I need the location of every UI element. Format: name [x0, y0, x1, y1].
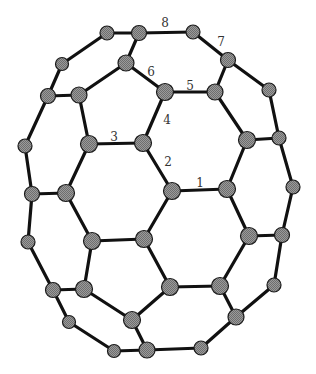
atom-J — [157, 84, 174, 101]
atom-L — [18, 139, 32, 153]
atom-a — [267, 278, 281, 292]
atom-C — [186, 25, 200, 39]
bond-H-L — [25, 96, 48, 146]
atom-H — [41, 89, 56, 104]
atom-P — [272, 131, 286, 145]
bond-label-3: 3 — [110, 130, 118, 144]
atom-b — [46, 283, 61, 298]
atom-R — [58, 185, 75, 202]
atom-f — [63, 316, 76, 329]
atom-O — [239, 132, 256, 149]
bond-V-b — [28, 242, 53, 290]
atom-X — [136, 231, 153, 248]
atom-K — [207, 84, 223, 100]
atom-g — [124, 312, 141, 329]
atom-Q — [25, 187, 40, 202]
bond-label-1: 1 — [196, 176, 204, 190]
fullerene-diagram: 12345678 — [0, 0, 316, 374]
atom-E — [56, 58, 69, 71]
bond-label-5: 5 — [186, 79, 194, 93]
bond-A-E — [62, 33, 107, 64]
bond-f-i — [69, 322, 114, 351]
atom-d — [162, 279, 179, 296]
atom-N — [135, 135, 152, 152]
atom-c — [76, 281, 93, 298]
atom-B — [132, 26, 147, 41]
atom-U — [286, 180, 300, 194]
atom-I — [71, 87, 87, 103]
atom-F — [118, 55, 134, 71]
bond-label-8: 8 — [161, 16, 169, 30]
atom-T — [219, 181, 236, 198]
bond-label-2: 2 — [164, 155, 172, 169]
bond-label-layer: 12345678 — [110, 16, 225, 190]
atom-D — [221, 53, 236, 68]
atom-G — [262, 83, 276, 97]
bond-label-4: 4 — [163, 113, 171, 127]
atom-j — [139, 342, 155, 358]
atom-M — [81, 136, 98, 153]
atom-h — [228, 309, 244, 325]
bond-B-C — [139, 32, 193, 33]
atom-V — [21, 235, 35, 249]
atom-S — [164, 183, 181, 200]
atom-Z — [275, 228, 290, 243]
bond-P-U — [279, 138, 293, 187]
atom-e — [212, 278, 229, 295]
atom-W — [84, 233, 101, 250]
bond-label-7: 7 — [217, 35, 225, 49]
atom-Y — [241, 228, 258, 245]
atom-i — [108, 345, 121, 358]
atom-A — [100, 26, 114, 40]
bond-label-6: 6 — [147, 65, 155, 79]
atom-k — [194, 341, 208, 355]
